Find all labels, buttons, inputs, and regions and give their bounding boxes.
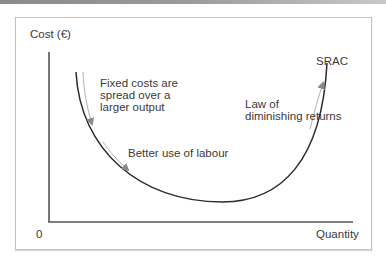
x-axis-label: Quantity bbox=[316, 228, 359, 240]
annotation-fixed-costs: Fixed costs are spread over a larger out… bbox=[100, 77, 178, 113]
y-axis-label: Cost (€) bbox=[30, 28, 71, 40]
origin-label: 0 bbox=[36, 228, 42, 240]
annotation-diminishing-returns: Law of diminishing returns bbox=[245, 98, 342, 122]
annotation-better-use: Better use of labour bbox=[128, 147, 228, 159]
srac-label: SRAC bbox=[316, 55, 348, 67]
arrow-better-use bbox=[103, 142, 128, 170]
